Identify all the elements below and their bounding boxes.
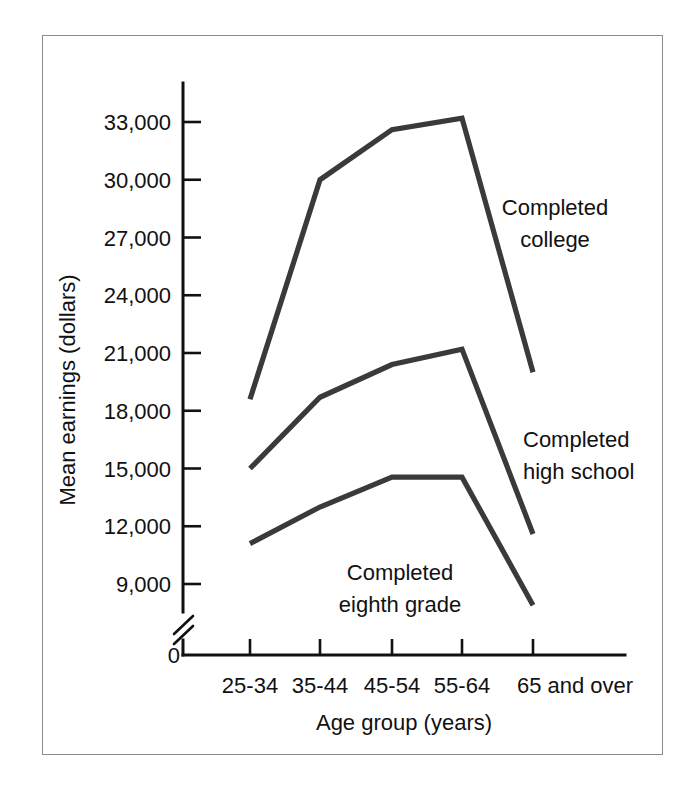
x-axis-ticks xyxy=(250,639,533,655)
y-axis-tick-label: 15,000 xyxy=(104,457,171,482)
axis-break-slash-upper xyxy=(174,616,193,634)
series-label-college-line2: college xyxy=(520,227,590,252)
y-axis-title: Mean earnings (dollars) xyxy=(55,274,80,505)
y-axis-ticks xyxy=(183,122,201,584)
y-axis-tick-label: 18,000 xyxy=(104,399,171,424)
series-label-high-school-line2: high school xyxy=(523,459,634,484)
series-label-completed-college: Completed college xyxy=(502,195,608,252)
x-axis-tick-labels: 25-3435-4445-5455-6465 and over xyxy=(222,673,633,698)
y-axis-tick-label: 9,000 xyxy=(116,572,171,597)
x-axis-tick-label: 55-64 xyxy=(434,673,490,698)
x-axis-tick-label: 25-34 xyxy=(222,673,278,698)
series-label-college-line1: Completed xyxy=(502,195,608,220)
series-label-high-school-line1: Completed xyxy=(523,427,629,452)
y-axis-tick-label: 27,000 xyxy=(104,226,171,251)
series-line-0 xyxy=(250,118,533,399)
series-label-eighth-grade-line1: Completed xyxy=(347,560,453,585)
series-line-1 xyxy=(250,349,533,534)
x-axis-tick-label: 35-44 xyxy=(292,673,348,698)
series-line-2 xyxy=(250,477,533,605)
x-axis-title: Age group (years) xyxy=(316,710,492,735)
y-axis-tick-label: 30,000 xyxy=(104,168,171,193)
x-axis-tick-label: 65 and over xyxy=(517,673,633,698)
x-axis-tick-label: 45-54 xyxy=(364,673,420,698)
series-label-eighth-grade-line2: eighth grade xyxy=(339,592,461,617)
y-axis-group xyxy=(174,83,193,655)
y-axis-tick-label: 24,000 xyxy=(104,283,171,308)
data-series-lines xyxy=(250,118,533,605)
line-chart: 9,00012,00015,00018,00021,00024,00027,00… xyxy=(0,0,693,801)
series-label-completed-high-school: Completed high school xyxy=(523,427,634,484)
y-axis-tick-label: 33,000 xyxy=(104,110,171,135)
y-axis-tick-label: 21,000 xyxy=(104,341,171,366)
y-axis-tick-label: 12,000 xyxy=(104,514,171,539)
figure-container: 9,00012,00015,00018,00021,00024,00027,00… xyxy=(0,0,693,801)
y-axis-origin-label: 0 xyxy=(168,643,180,668)
series-label-completed-eighth-grade: Completed eighth grade xyxy=(339,560,461,617)
y-axis-tick-labels: 9,00012,00015,00018,00021,00024,00027,00… xyxy=(104,110,171,597)
